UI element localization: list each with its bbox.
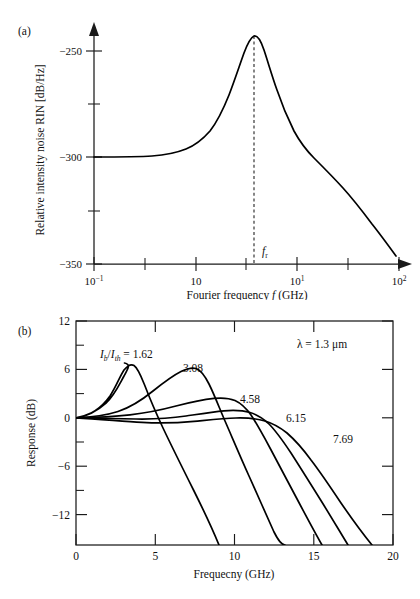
panel-b-x-axis-title: Frequecny (GHz) [194,568,275,581]
panel-b-y-axis-title: Response (dB) [25,399,38,467]
panel-a: (a) −250 −300 −350 Relative intensity no… [0,0,420,300]
panel-b: (b) 12 6 0 −6 −12 [0,300,420,599]
panel-a-x-axis-title: Fourier frequency f (GHz) [186,289,307,300]
panel-b-curve-7-69 [76,418,372,545]
panel-b-wavelength-annotation: λ = 1.3 μm [297,338,347,351]
panel-b-xtick-label-4: 20 [387,550,399,562]
panel-a-svg: (a) −250 −300 −350 Relative intensity no… [0,0,420,300]
panel-b-curve-6-15 [76,410,348,545]
panel-b-svg: (b) 12 6 0 −6 −12 [0,300,420,599]
panel-a-ytick-label-1: −300 [59,151,82,163]
panel-a-xtick-label-2: 101 [290,274,305,287]
panel-a-xtick-label-3: 102 [392,274,407,287]
panel-a-ytick-label-2: −350 [59,258,82,270]
panel-b-curve-label-7-69: 7.69 [333,433,353,445]
panel-b-curve-label-4-58: 4.58 [240,393,260,405]
panel-b-xtick-label-2: 10 [229,550,241,562]
panel-b-ratio-annotation: Ib/Ith = 1.62 [99,348,153,363]
panel-a-xtick-label-1: 10 [191,275,203,287]
panel-b-label: (b) [18,325,32,338]
panel-b-xtick-label-0: 0 [73,550,79,562]
panel-a-y-axis-title: Relative intensity noise RIN [dB/Hz] [34,64,47,235]
panel-a-y-axis-arrow [89,22,99,36]
panel-a-x-axis-arrow [398,259,412,269]
panel-b-ytick-label-0: 12 [59,315,71,327]
figure-container: (a) −250 −300 −350 Relative intensity no… [0,0,420,599]
panel-a-xtick-label-0: 10−1 [85,274,104,287]
panel-b-xtick-label-3: 15 [308,550,320,562]
panel-a-curve-rin [94,36,396,256]
panel-b-xtick-label-1: 5 [152,550,158,562]
panel-b-curves-group [76,363,372,545]
panel-b-ytick-label-1: 6 [64,363,70,375]
panel-a-label: (a) [18,25,31,38]
panel-b-curve-label-6-15: 6.15 [286,412,306,424]
panel-b-ytick-label-3: −6 [58,460,70,472]
panel-a-ytick-label-0: −250 [59,45,82,57]
panel-b-curve-1-62 [76,363,219,545]
panel-b-ytick-label-4: −12 [52,509,70,521]
panel-a-fr-label: fr [262,245,268,260]
panel-b-ytick-label-2: 0 [64,412,70,424]
